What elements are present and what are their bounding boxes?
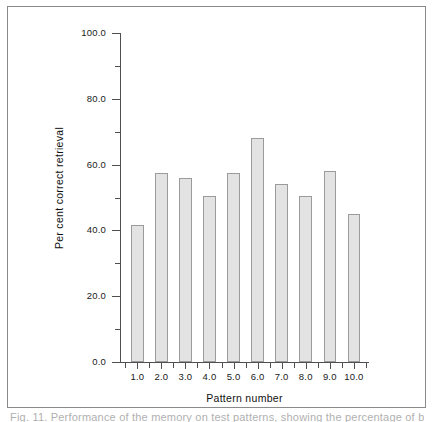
x-tick-minor xyxy=(294,363,295,368)
x-tick-major xyxy=(258,363,259,369)
bar xyxy=(203,196,216,362)
y-tick-label: 60.0 xyxy=(42,159,106,170)
x-tick-major xyxy=(354,363,355,369)
bar-series xyxy=(120,33,369,362)
x-tick-minor xyxy=(173,363,174,368)
figure-root: 0.020.040.060.080.0100.0 1.02.03.04.05.0… xyxy=(0,0,434,422)
x-tick-minor xyxy=(318,363,319,368)
y-axis-title: Per cent correct retrieval xyxy=(53,93,65,283)
y-tick-label: 80.0 xyxy=(42,93,106,104)
x-tick-major xyxy=(161,363,162,369)
bar xyxy=(324,171,337,362)
bar xyxy=(227,173,240,362)
y-tick-label: 40.0 xyxy=(42,224,106,235)
x-tick-minor xyxy=(366,363,367,368)
figure-frame: 0.020.040.060.080.0100.0 1.02.03.04.05.0… xyxy=(7,6,426,408)
bar xyxy=(179,178,192,362)
x-axis-title: Pattern number xyxy=(120,392,369,404)
x-axis-line xyxy=(120,362,369,363)
x-tick-major xyxy=(137,363,138,369)
x-tick-minor xyxy=(342,363,343,368)
bar xyxy=(299,196,312,362)
y-tick-major xyxy=(112,362,121,363)
y-tick-label: 100.0 xyxy=(42,27,106,38)
x-tick-minor xyxy=(197,363,198,368)
bar xyxy=(131,225,144,362)
x-tick-major xyxy=(282,363,283,369)
x-tick-major xyxy=(209,363,210,369)
figure-caption-strip: Fig. 11. Performance of the memory on te… xyxy=(10,413,424,422)
x-tick-major xyxy=(306,363,307,369)
x-tick-label: 10.0 xyxy=(336,371,372,382)
bar xyxy=(275,184,288,362)
x-tick-minor xyxy=(270,363,271,368)
x-tick-minor xyxy=(149,363,150,368)
y-tick-label: 20.0 xyxy=(42,290,106,301)
bar xyxy=(348,214,361,362)
figure-caption: Fig. 11. Performance of the memory on te… xyxy=(10,413,424,422)
x-tick-minor xyxy=(246,363,247,368)
bar xyxy=(251,138,264,362)
bar xyxy=(155,173,168,362)
y-tick-label: 0.0 xyxy=(42,356,106,367)
x-tick-minor xyxy=(125,363,126,368)
x-tick-minor xyxy=(222,363,223,368)
x-tick-major xyxy=(330,363,331,369)
x-tick-major xyxy=(234,363,235,369)
x-tick-major xyxy=(185,363,186,369)
